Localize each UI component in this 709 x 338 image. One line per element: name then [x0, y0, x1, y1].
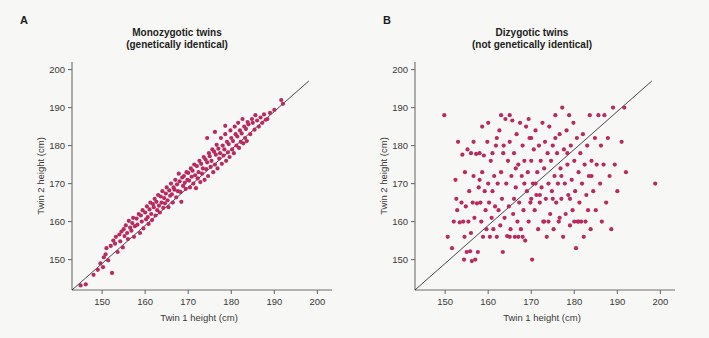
- x-axis-title: Twin 1 height (cm): [160, 312, 238, 323]
- scatter-point: [551, 144, 555, 148]
- scatter-point: [223, 132, 227, 136]
- scatter-point: [251, 121, 255, 125]
- y-tick-label: 150: [49, 254, 65, 265]
- scatter-point: [190, 169, 194, 173]
- scatter-point: [485, 140, 489, 144]
- scatter-point: [224, 159, 228, 163]
- scatter-point: [203, 178, 207, 182]
- scatter-point: [472, 216, 476, 220]
- scatter-point: [244, 127, 248, 131]
- scatter-point: [602, 113, 606, 117]
- scatter-point: [493, 204, 497, 208]
- scatter-point: [596, 113, 600, 117]
- x-tick-label: 200: [309, 296, 325, 307]
- scatter-point: [469, 231, 473, 235]
- scatter-point: [240, 131, 244, 135]
- scatter-point: [222, 147, 226, 151]
- scatter-point: [96, 268, 100, 272]
- x-tick-label: 160: [480, 296, 496, 307]
- scatter-point: [281, 102, 285, 106]
- scatter-point: [167, 188, 171, 192]
- scatter-point: [98, 261, 102, 265]
- scatter-point: [510, 118, 514, 122]
- scatter-point: [188, 185, 192, 189]
- scatter-point: [559, 197, 563, 201]
- scatter-point: [178, 179, 182, 183]
- scatter-point: [589, 227, 593, 231]
- scatter-point: [245, 139, 249, 143]
- scatter-point: [598, 182, 602, 186]
- scatter-point: [139, 213, 143, 217]
- scatter-point: [546, 151, 550, 155]
- scatter-point: [463, 170, 467, 174]
- scatter-point: [564, 212, 568, 216]
- scatter-point: [464, 204, 468, 208]
- scatter-point: [582, 235, 586, 239]
- scatter-point: [558, 216, 562, 220]
- scatter-point: [149, 212, 153, 216]
- scatter-point: [228, 128, 232, 132]
- x-tick-label: 150: [94, 296, 110, 307]
- scatter-point: [518, 121, 522, 125]
- twin-height-scatter-figure: A Monozygotic twins (genetically identic…: [0, 0, 709, 338]
- scatter-point: [206, 174, 210, 178]
- scatter-point: [198, 180, 202, 184]
- scatter-point: [564, 128, 568, 132]
- scatter-point: [186, 171, 190, 175]
- scatter-point: [613, 163, 617, 167]
- scatter-point: [575, 136, 579, 140]
- x-tick-label: 160: [137, 296, 153, 307]
- scatter-point: [585, 144, 589, 148]
- scatter-point: [454, 197, 458, 201]
- scatter-point: [543, 140, 547, 144]
- scatter-point: [213, 163, 217, 167]
- scatter-point: [460, 153, 464, 157]
- scatter-point: [514, 185, 518, 189]
- scatter-point: [599, 144, 603, 148]
- scatter-point: [471, 140, 475, 144]
- scatter-points: [442, 106, 657, 264]
- scatter-point: [158, 210, 162, 214]
- scatter-point: [114, 235, 118, 239]
- scatter-point: [141, 226, 145, 230]
- scatter-point: [583, 163, 587, 167]
- scatter-point: [124, 223, 128, 227]
- scatter-point: [471, 174, 475, 178]
- scatter-point: [499, 170, 503, 174]
- scatter-point: [559, 174, 563, 178]
- scatter-point: [240, 117, 244, 121]
- scatter-point: [489, 159, 493, 163]
- scatter-point: [465, 250, 469, 254]
- scatter-point: [177, 172, 181, 176]
- scatter-point: [576, 220, 580, 224]
- scatter-point: [524, 125, 528, 129]
- scatter-point: [84, 282, 88, 286]
- scatter-point: [504, 182, 508, 186]
- scatter-point: [515, 220, 519, 224]
- scatter-point: [611, 106, 615, 110]
- scatter-point: [539, 185, 543, 189]
- scatter-point: [134, 216, 138, 220]
- scatter-point: [113, 242, 117, 246]
- scatter-point: [481, 235, 485, 239]
- scatter-point: [456, 140, 460, 144]
- scatter-point: [495, 235, 499, 239]
- scatter-point: [536, 227, 540, 231]
- scatter-point: [262, 112, 266, 116]
- y-tick-label: 160: [49, 216, 65, 227]
- scatter-point: [490, 216, 494, 220]
- scatter-point: [232, 151, 236, 155]
- scatter-point: [609, 227, 613, 231]
- scatter-point: [209, 159, 213, 163]
- scatter-point: [166, 205, 170, 209]
- scatter-point: [545, 235, 549, 239]
- x-tick-label: 170: [180, 296, 196, 307]
- x-tick-label: 180: [566, 296, 582, 307]
- scatter-point: [486, 182, 490, 186]
- scatter-point: [577, 201, 581, 205]
- scatter-point: [570, 178, 574, 182]
- scatter-point: [494, 144, 498, 148]
- scatter-point: [170, 192, 174, 196]
- scatter-point: [547, 125, 551, 129]
- scatter-point: [478, 201, 482, 205]
